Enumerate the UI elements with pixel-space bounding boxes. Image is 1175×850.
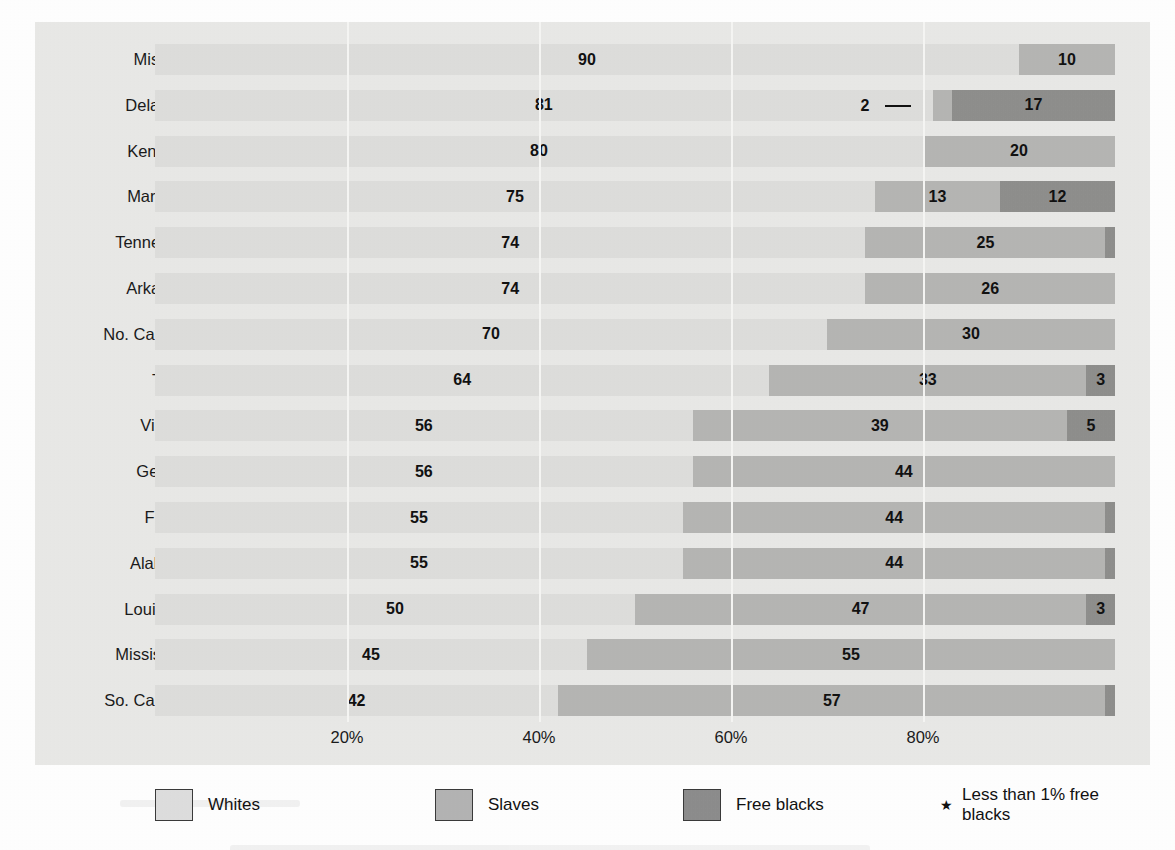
segment-slaves: 44 (693, 456, 1115, 487)
segment-slaves: 39 (693, 410, 1067, 441)
segment-value-label: 3 (1096, 601, 1105, 617)
legend-swatch-whites (155, 789, 193, 821)
chart-row: Virginia56395 (35, 406, 1150, 444)
stacked-bar: 9010★ (155, 44, 1115, 75)
segment-value-label: 75 (506, 189, 524, 205)
stacked-bar: 56395 (155, 410, 1115, 441)
segment-slaves (933, 90, 952, 121)
stacked-bar: 74251 (155, 227, 1115, 258)
chart-row: Delaware81172 (35, 86, 1150, 124)
segment-value-label: 20 (1010, 143, 1028, 159)
segment-value-label: 74 (501, 235, 519, 251)
segment-slaves: 30 (827, 319, 1115, 350)
legend-swatch-free-blacks (683, 789, 721, 821)
segment-slaves: 47 (635, 594, 1086, 625)
chart-row: Arkansas7426★ (35, 269, 1150, 307)
stacked-bar: 7030★ (155, 319, 1115, 350)
segment-value-label: 39 (871, 418, 889, 434)
segment-value-label: 50 (386, 601, 404, 617)
gridline-80 (923, 22, 925, 722)
legend-label: Whites (208, 795, 260, 815)
segment-value-label: 64 (453, 372, 471, 388)
segment-value-label: 45 (362, 647, 380, 663)
segment-whites: 70 (155, 319, 827, 350)
chart-panel: Missouri9010★Delaware81172Kentucky8020★M… (35, 22, 1150, 765)
stacked-bar: 55441 (155, 548, 1115, 579)
stacked-bar: 7426★ (155, 273, 1115, 304)
segment-value-label: 12 (1048, 189, 1066, 205)
legend-swatch-slaves (435, 789, 473, 821)
segment-free-blacks: 17 (952, 90, 1115, 121)
stacked-bar: 55441 (155, 502, 1115, 533)
segment-whites: 74 (155, 227, 865, 258)
segment-value-label: 70 (482, 326, 500, 342)
segment-slaves: 44 (683, 502, 1105, 533)
legend-label: Slaves (488, 795, 539, 815)
chart-row: Florida55441 (35, 498, 1150, 536)
chart-row: No. Carolina7030★ (35, 315, 1150, 353)
segment-value-label: 42 (348, 693, 366, 709)
segment-value-label: 17 (1024, 97, 1042, 113)
chart-legend: WhitesSlavesFree blacks★Less than 1% fre… (35, 782, 1150, 828)
segment-value-label: 3 (1096, 372, 1105, 388)
segment-slaves: 25 (865, 227, 1105, 258)
segment-whites: 81 (155, 90, 933, 121)
segment-slaves: 55 (587, 639, 1115, 670)
x-axis-tick-label: 60% (714, 728, 747, 747)
slaves-leader-value: 2 (861, 90, 870, 121)
segment-whites: 42 (155, 685, 558, 716)
x-axis-tick-label: 40% (522, 728, 555, 747)
segment-value-label: 10 (1058, 52, 1076, 68)
gridline-20 (347, 22, 349, 722)
segment-value-label: 57 (823, 693, 841, 709)
chart-row: Kentucky8020★ (35, 132, 1150, 170)
segment-value-label: 25 (976, 235, 994, 251)
segment-value-label: 30 (962, 326, 980, 342)
segment-free-blacks: 3 (1086, 594, 1115, 625)
segment-free-blacks: 5 (1067, 410, 1115, 441)
segment-value-label: 44 (885, 510, 903, 526)
legend-label: Free blacks (736, 795, 824, 815)
segment-whites: 45 (155, 639, 587, 670)
segment-value-label: 44 (885, 555, 903, 571)
stacked-bar: 42571 (155, 685, 1115, 716)
segment-whites: 74 (155, 273, 865, 304)
segment-value-label: 26 (981, 281, 999, 297)
x-axis-tick-label: 80% (906, 728, 939, 747)
chart-row: Alabama55441 (35, 544, 1150, 582)
legend-item-slaves[interactable]: Slaves (435, 789, 539, 821)
segment-whites: 64 (155, 365, 769, 396)
stacked-bar: 64333 (155, 365, 1115, 396)
segment-value-label: 33 (919, 372, 937, 388)
segment-value-label: 44 (895, 464, 913, 480)
chart-row: Texas64333 (35, 361, 1150, 399)
segment-free-blacks (1105, 502, 1115, 533)
stacked-bar: 81172 (155, 90, 1115, 121)
segment-whites: 56 (155, 456, 693, 487)
segment-slaves: 57 (558, 685, 1105, 716)
segment-value-label: 55 (410, 510, 428, 526)
gridline-60 (731, 22, 733, 722)
footnote-asterisk-icon: ★ (940, 797, 953, 813)
stacked-bar: 4555★ (155, 639, 1115, 670)
segment-free-blacks (1105, 685, 1115, 716)
bleed-line (230, 845, 870, 850)
segment-whites: 55 (155, 548, 683, 579)
chart-row: Louisiana50473 (35, 590, 1150, 628)
plot-area: Missouri9010★Delaware81172Kentucky8020★M… (35, 22, 1150, 765)
segment-free-blacks (1105, 548, 1115, 579)
segment-whites: 90 (155, 44, 1019, 75)
legend-item-whites[interactable]: Whites (155, 789, 260, 821)
segment-value-label: 74 (501, 281, 519, 297)
legend-footnote: ★Less than 1% free blacks (940, 785, 1150, 825)
segment-value-label: 55 (410, 555, 428, 571)
segment-value-label: 56 (415, 464, 433, 480)
chart-row: Georgia5644★ (35, 452, 1150, 490)
segment-value-label: 47 (852, 601, 870, 617)
segment-whites: 55 (155, 502, 683, 533)
stacked-bar: 751312 (155, 181, 1115, 212)
legend-item-free-blacks[interactable]: Free blacks (683, 789, 824, 821)
stacked-bar: 50473 (155, 594, 1115, 625)
segment-free-blacks: 3 (1086, 365, 1115, 396)
segment-whites: 56 (155, 410, 693, 441)
